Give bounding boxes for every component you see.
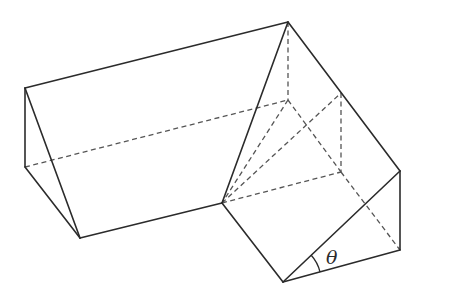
edge-BH [288, 22, 400, 171]
edge-KE [222, 203, 283, 282]
hidden-edges [25, 22, 400, 250]
edge-AB [25, 22, 288, 88]
hidden-edge-FI [288, 100, 341, 172]
visible-edges [25, 22, 400, 282]
edge-DE [80, 203, 222, 238]
prism-diagram: θ [0, 0, 470, 295]
edge-AD [25, 88, 80, 238]
edge-EB [222, 22, 288, 203]
angle-theta-label: θ [326, 246, 338, 268]
angle-arc [311, 255, 320, 272]
hidden-edge-IJ [341, 172, 400, 250]
hidden-edge-FE [222, 100, 288, 203]
hidden-edge-CF [25, 100, 288, 167]
hidden-edge-EI [222, 172, 341, 203]
diagram-canvas: θ [0, 0, 470, 295]
edge-CD [25, 167, 80, 238]
